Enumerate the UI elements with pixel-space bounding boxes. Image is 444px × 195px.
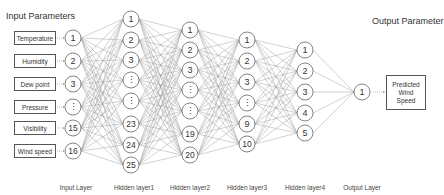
neuron-node: 20 xyxy=(182,147,198,163)
neuron-node: ⋮ xyxy=(65,99,81,115)
neuron-label: ⋮ xyxy=(186,106,195,116)
connection-line xyxy=(198,40,239,155)
connection-line xyxy=(81,101,123,151)
neuron-node: 3 xyxy=(239,74,255,90)
neuron-node: 3 xyxy=(182,62,198,78)
neuron-node: 25 xyxy=(123,157,139,173)
input-parameter-label: Temperature xyxy=(17,35,54,42)
connection-line xyxy=(81,84,123,101)
input-parameter-box: Humidity xyxy=(14,54,56,68)
neuron-node: ⋮ xyxy=(182,103,198,119)
neuron-label: 15 xyxy=(68,123,78,133)
neuron-label: 2 xyxy=(128,35,133,45)
connection-line xyxy=(313,71,354,92)
neuron-node: ⋮ xyxy=(123,72,139,88)
neuron-label: 2 xyxy=(244,56,249,66)
neuron-label: 4 xyxy=(302,108,307,118)
connection-line xyxy=(139,50,182,165)
connection-line xyxy=(139,134,182,165)
neuron-node: 1 xyxy=(123,11,139,27)
connection-line xyxy=(255,133,297,144)
neuron-label: 5 xyxy=(302,128,307,138)
neuron-label: 2 xyxy=(70,56,75,66)
neuron-node: 9 xyxy=(239,116,255,132)
connection-line xyxy=(139,155,182,165)
connection-line xyxy=(313,50,354,92)
neuron-node: ⋮ xyxy=(239,95,255,111)
neuron-label: ⋮ xyxy=(186,85,195,95)
neuron-node: 1 xyxy=(239,32,255,48)
input-parameter-label: Visibility xyxy=(23,125,46,132)
connection-line xyxy=(255,92,297,144)
neuron-label: 1 xyxy=(302,45,307,55)
neuron-label: 19 xyxy=(185,129,195,139)
neuron-node: 3 xyxy=(65,76,81,92)
connection-line xyxy=(81,80,123,128)
connection-line xyxy=(139,30,182,40)
input-parameter-box: Wind speed xyxy=(14,144,56,158)
connection-line xyxy=(255,50,297,124)
neuron-label: 3 xyxy=(70,79,75,89)
connection-line xyxy=(255,50,297,103)
neuron-label: 2 xyxy=(302,66,307,76)
neuron-label: 1 xyxy=(187,25,192,35)
neuron-node: 15 xyxy=(65,120,81,136)
neuron-node: ⋮ xyxy=(123,93,139,109)
connection-line xyxy=(198,103,239,155)
neuron-node: 19 xyxy=(182,126,198,142)
connection-line xyxy=(198,144,239,155)
neuron-node: 1 xyxy=(354,84,370,100)
connection-line xyxy=(81,145,123,151)
neuron-label: 1 xyxy=(128,14,133,24)
neuron-node: 2 xyxy=(65,53,81,69)
neuron-label: 3 xyxy=(187,65,192,75)
connection-line xyxy=(139,30,182,80)
neuron-node: 1 xyxy=(65,30,81,46)
connection-line xyxy=(81,19,123,84)
neuron-label: ⋮ xyxy=(243,98,252,108)
neuron-node: 2 xyxy=(297,63,313,79)
layer-label: Hidden layer3 xyxy=(227,184,267,191)
neuron-node: 4 xyxy=(297,105,313,121)
connection-line xyxy=(81,40,123,84)
neuron-node: 10 xyxy=(239,136,255,152)
neuron-node: 2 xyxy=(182,42,198,58)
input-parameter-label: Dew point xyxy=(21,81,50,88)
neuron-label: ⋮ xyxy=(127,75,136,85)
output-parameter-title: Output Parameter xyxy=(372,16,444,26)
neuron-label: 3 xyxy=(302,87,307,97)
neuron-label: 1 xyxy=(359,87,364,97)
neuron-label: 23 xyxy=(126,119,136,129)
neuron-label: 16 xyxy=(68,146,78,156)
neuron-label: 20 xyxy=(185,150,195,160)
connection-line xyxy=(198,30,239,82)
input-parameter-box: Dew point xyxy=(14,77,56,91)
layer-label: Output Layer xyxy=(343,184,381,191)
connection-line xyxy=(81,19,123,61)
input-parameter-label: Pressure xyxy=(22,104,48,111)
input-parameter-label: Humidity xyxy=(22,58,47,65)
neuron-node: 24 xyxy=(123,137,139,153)
neuron-label: 1 xyxy=(70,33,75,43)
connection-line xyxy=(255,40,297,50)
connection-line xyxy=(81,60,123,61)
neuron-node: 3 xyxy=(297,84,313,100)
connection-line xyxy=(255,50,297,61)
neuron-label: 1 xyxy=(244,35,249,45)
neuron-label: 24 xyxy=(126,140,136,150)
connection-line xyxy=(139,19,182,30)
neuron-node: 1 xyxy=(182,22,198,38)
input-parameter-box: Pressure xyxy=(14,100,56,114)
connection-line xyxy=(198,50,239,61)
neuron-node: ⋮ xyxy=(182,82,198,98)
connection-line xyxy=(198,82,239,155)
neuron-node: 1 xyxy=(297,42,313,58)
neuron-node: 2 xyxy=(239,53,255,69)
neuron-node: 23 xyxy=(123,116,139,132)
neuron-label: 2 xyxy=(187,45,192,55)
neuron-node: 5 xyxy=(297,125,313,141)
neuron-label: 9 xyxy=(244,119,249,129)
connection-line xyxy=(198,30,239,40)
input-parameters-title: Input Parameters xyxy=(6,11,75,21)
